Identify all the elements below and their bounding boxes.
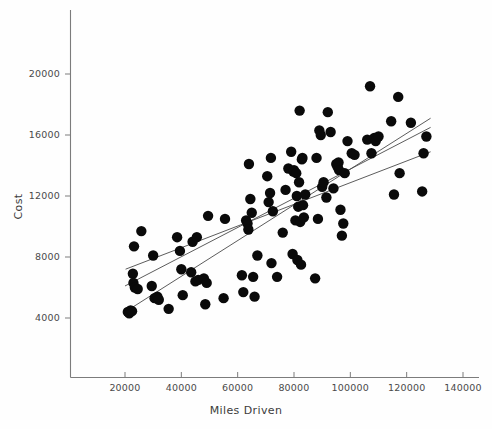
y-tick-label: 8000 xyxy=(35,251,60,262)
data-point xyxy=(186,267,196,277)
data-point xyxy=(421,131,431,141)
data-point xyxy=(389,189,399,199)
x-axis-title: Miles Driven xyxy=(0,404,492,417)
y-tick-label: 16000 xyxy=(29,129,60,140)
regression-lines xyxy=(125,118,431,311)
data-point xyxy=(321,192,331,202)
data-point xyxy=(238,287,248,297)
data-point xyxy=(366,148,376,158)
data-point xyxy=(286,147,296,157)
data-point xyxy=(237,270,247,280)
data-point xyxy=(318,177,328,187)
x-tick-label: 100000 xyxy=(332,382,369,393)
data-point xyxy=(406,118,416,128)
data-point xyxy=(129,241,139,251)
data-point xyxy=(263,197,273,207)
data-point xyxy=(265,188,275,198)
data-point xyxy=(291,168,301,178)
data-point xyxy=(163,304,173,314)
regression-line xyxy=(126,118,430,311)
data-point xyxy=(342,136,352,146)
data-point xyxy=(394,168,404,178)
data-point xyxy=(294,105,304,115)
data-point xyxy=(297,153,307,163)
regression-line xyxy=(125,127,431,286)
data-point xyxy=(313,214,323,224)
data-point xyxy=(300,189,310,199)
data-point xyxy=(418,148,428,158)
data-point xyxy=(278,227,288,237)
data-point xyxy=(296,259,306,269)
y-axis-title: Cost xyxy=(12,177,25,237)
y-axis-ticks: 40008000120001600020000 xyxy=(29,68,71,323)
data-point xyxy=(266,258,276,268)
data-point xyxy=(249,291,259,301)
data-point xyxy=(136,226,146,236)
x-tick-label: 120000 xyxy=(388,382,425,393)
y-tick-label: 4000 xyxy=(35,312,60,323)
data-point xyxy=(220,214,230,224)
data-point xyxy=(192,232,202,242)
data-point xyxy=(338,218,348,228)
data-point xyxy=(335,205,345,215)
data-point xyxy=(280,185,290,195)
data-point xyxy=(323,107,333,117)
data-point xyxy=(349,150,359,160)
data-point xyxy=(218,293,228,303)
data-point xyxy=(266,153,276,163)
data-point xyxy=(325,127,335,137)
data-point xyxy=(272,272,282,282)
data-point xyxy=(244,159,254,169)
x-tick-label: 80000 xyxy=(278,382,309,393)
data-point xyxy=(148,250,158,260)
data-point xyxy=(203,211,213,221)
data-point xyxy=(201,278,211,288)
data-point xyxy=(298,200,308,210)
data-point xyxy=(200,299,210,309)
regression-line xyxy=(126,152,431,269)
data-point xyxy=(294,177,304,187)
scatter-plot-figure: 20000400006000080000100000120000140000 4… xyxy=(0,0,492,429)
data-point xyxy=(175,246,185,256)
data-point xyxy=(337,230,347,240)
data-point xyxy=(128,269,138,279)
x-tick-label: 140000 xyxy=(444,382,481,393)
data-point xyxy=(310,273,320,283)
data-point xyxy=(328,183,338,193)
x-axis-ticks: 20000400006000080000100000120000140000 xyxy=(109,372,481,393)
data-point xyxy=(243,224,253,234)
y-tick-label: 20000 xyxy=(29,68,60,79)
data-points xyxy=(123,81,432,319)
data-point xyxy=(299,212,309,222)
data-point xyxy=(127,306,137,316)
data-point xyxy=(176,264,186,274)
data-point xyxy=(386,116,396,126)
data-point xyxy=(132,284,142,294)
x-tick-label: 20000 xyxy=(109,382,140,393)
data-point xyxy=(340,168,350,178)
y-tick-label: 12000 xyxy=(29,190,60,201)
data-point xyxy=(172,232,182,242)
data-point xyxy=(147,281,157,291)
data-point xyxy=(247,208,257,218)
x-tick-label: 40000 xyxy=(166,382,197,393)
data-point xyxy=(417,186,427,196)
data-point xyxy=(252,250,262,260)
data-point xyxy=(178,290,188,300)
data-point xyxy=(248,272,258,282)
data-point xyxy=(245,194,255,204)
data-point xyxy=(311,153,321,163)
data-point xyxy=(154,295,164,305)
data-point xyxy=(365,81,375,91)
data-point xyxy=(373,131,383,141)
data-point xyxy=(393,92,403,102)
data-point xyxy=(268,206,278,216)
data-point xyxy=(262,171,272,181)
plot-canvas: 20000400006000080000100000120000140000 4… xyxy=(0,0,492,429)
data-point xyxy=(316,130,326,140)
x-tick-label: 60000 xyxy=(222,382,253,393)
